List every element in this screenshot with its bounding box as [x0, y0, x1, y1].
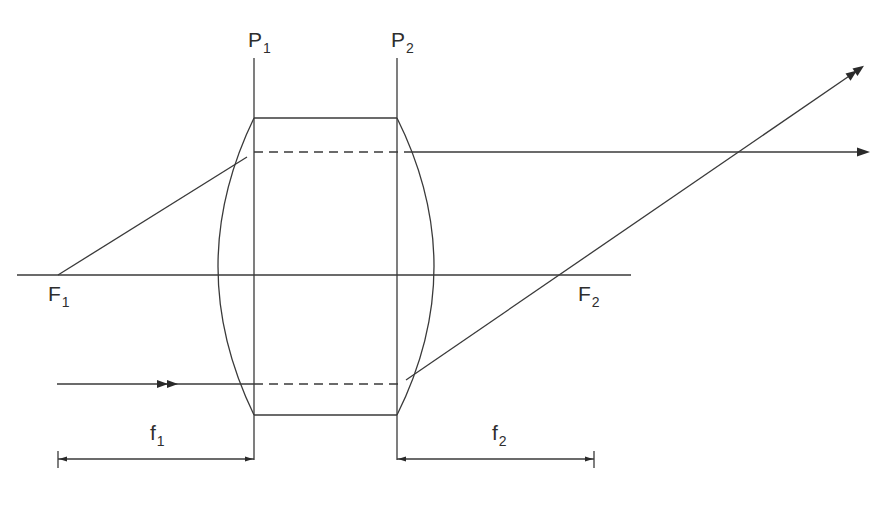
label-f1-focal-point: F1 [48, 282, 70, 310]
dimension-f2-arrow-right-icon [585, 457, 593, 462]
dimension-f1-arrow-right-icon [245, 457, 253, 462]
arrowhead-bottom-incoming-2-icon [167, 380, 178, 388]
ray-bottom-exit [406, 70, 858, 380]
label-p2: P2 [391, 28, 414, 56]
label-f1-focal-length: f1 [150, 421, 165, 449]
label-f2-focal-point: F2 [578, 282, 600, 310]
thick-lens-diagram: P1 P2 F1 F2 f1 f2 [0, 0, 881, 512]
lens-left-surface [218, 118, 254, 415]
lens-right-surface [397, 118, 434, 415]
arrowhead-bottom-incoming-1-icon [157, 380, 168, 388]
arrowhead-top-exit-icon [857, 148, 870, 157]
label-f2-focal-length: f2 [492, 421, 507, 449]
dimension-f2-arrow-left-icon [398, 457, 406, 462]
dimension-f1-arrow-left-icon [59, 457, 67, 462]
label-p1: P1 [248, 28, 271, 56]
